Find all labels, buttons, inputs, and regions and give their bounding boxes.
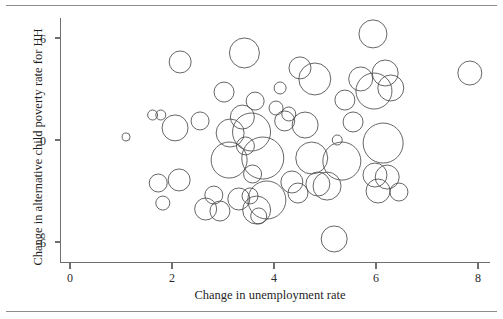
bubble-point: [323, 142, 361, 180]
bubble-point: [233, 113, 271, 151]
ticks-group: [55, 38, 479, 269]
bubble-point: [162, 115, 188, 141]
figure-container: 0246860-6 Change in alternative child po…: [0, 0, 503, 319]
bubble-point: [363, 123, 403, 163]
bubble-point: [274, 82, 286, 94]
bubble-point: [122, 133, 130, 141]
axes-group: [61, 18, 491, 263]
bubble-point: [251, 208, 267, 224]
bubble-point: [229, 38, 259, 68]
bubble-point: [191, 112, 209, 130]
x-tick-label: 6: [373, 271, 379, 285]
bubble-point: [321, 226, 347, 252]
bubble-point: [169, 51, 191, 73]
bubble-point: [275, 111, 295, 131]
bubble-point: [228, 188, 250, 210]
bubble-point: [210, 201, 230, 221]
bubble-series: [122, 20, 482, 252]
bubble-point: [390, 183, 408, 201]
bubble-point: [156, 196, 170, 210]
tick-labels-group: 0246860-6: [36, 32, 481, 286]
bubble-point: [195, 198, 217, 220]
bubble-point: [214, 82, 234, 102]
bubble-point: [244, 165, 262, 183]
bubble-point: [366, 179, 390, 203]
bubble-chart-plot: 0246860-6: [0, 0, 503, 319]
bubble-point: [292, 112, 318, 138]
bubble-point: [458, 61, 482, 85]
bubble-point: [343, 112, 363, 132]
x-tick-label: 2: [169, 271, 175, 285]
bubble-point: [281, 171, 303, 193]
bubble-point: [216, 119, 244, 147]
y-axis-title: Change in alternative child poverty rate…: [31, 27, 45, 267]
bubble-point: [149, 174, 167, 192]
bubble-point: [289, 57, 311, 79]
bubble-point: [359, 20, 387, 48]
bubble-point: [335, 90, 355, 110]
bubble-point: [299, 63, 331, 95]
bubble-point: [269, 101, 283, 115]
bubble-point: [168, 169, 190, 191]
x-tick-label: 8: [475, 271, 481, 285]
x-axis-title: Change in unemployment rate: [60, 288, 480, 303]
bubble-point: [246, 92, 264, 110]
x-tick-label: 0: [67, 271, 73, 285]
bubble-point: [242, 137, 284, 179]
x-tick-label: 4: [271, 271, 277, 285]
